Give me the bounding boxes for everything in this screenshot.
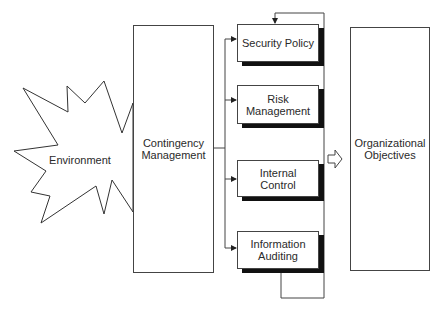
risk-management-box: Risk Management [237,85,319,124]
internal-control-box: Internal Control [237,160,319,197]
output-arrow-icon [328,150,342,168]
environment-label: Environment [40,154,120,166]
contingency-management-box: Contingency Management [133,25,214,273]
objectives-label: Organizational Objectives [351,137,429,161]
security-policy-box: Security Policy [237,24,319,62]
organizational-objectives-box: Organizational Objectives [350,27,430,271]
left-connector [213,39,236,248]
contingency-label: Contingency Management [134,137,213,161]
environment-starburst [14,81,133,223]
information-auditing-box: Information Auditing [237,231,319,269]
